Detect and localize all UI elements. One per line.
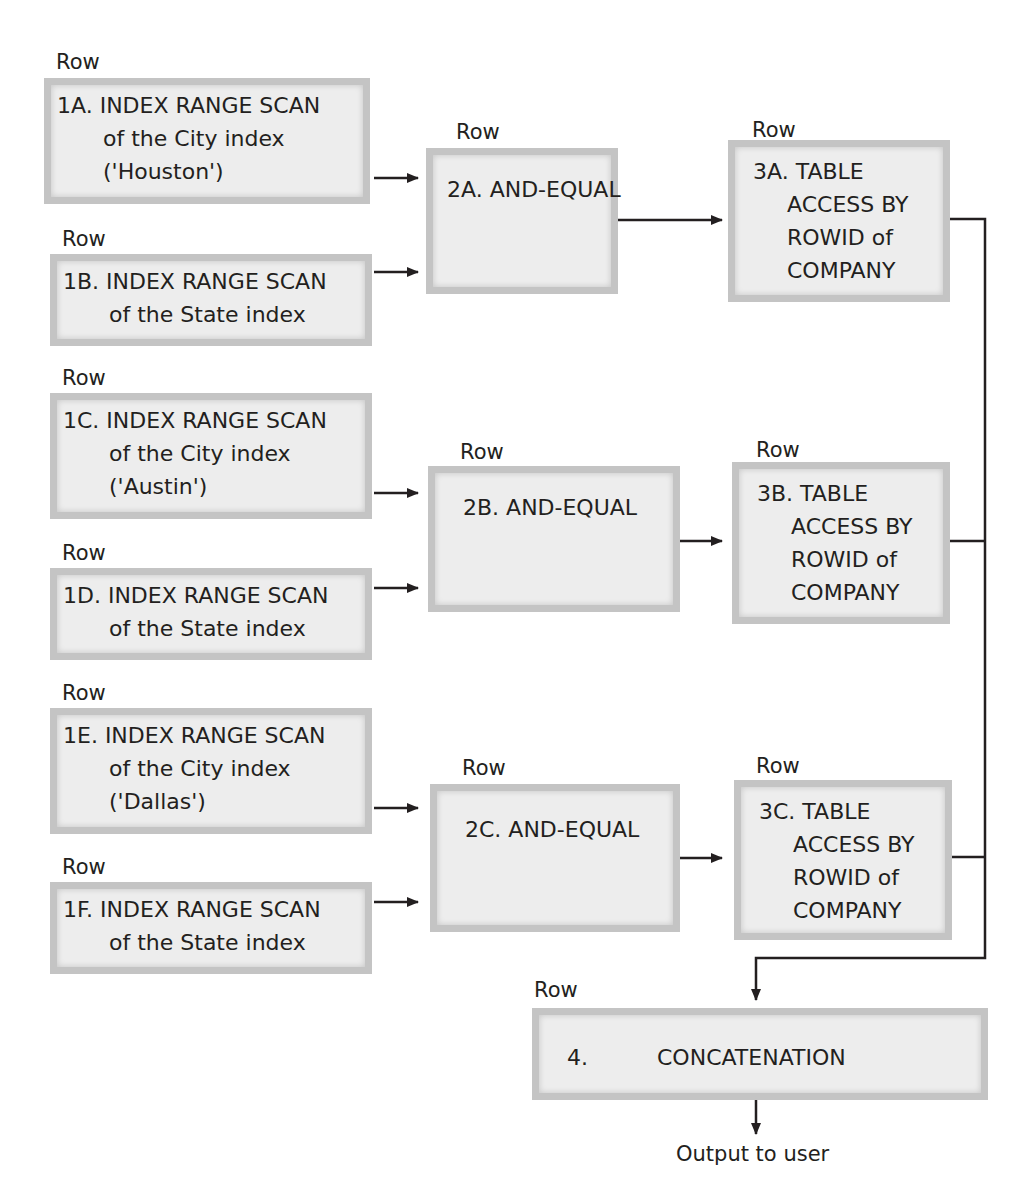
step-title: 2B. AND-EQUAL	[463, 491, 673, 524]
output-to-user-label: Output to user	[676, 1142, 829, 1166]
step-title: 1E. INDEX RANGE SCAN	[63, 719, 365, 752]
row-label-4: Row	[534, 978, 578, 1002]
step-1c-index-range-scan: 1C. INDEX RANGE SCAN of the City index (…	[50, 393, 372, 519]
step-title: CONCATENATION	[657, 1045, 846, 1070]
row-label-3a: Row	[752, 118, 796, 142]
step-detail: ACCESS BY	[753, 188, 943, 221]
row-label-3c: Row	[756, 754, 800, 778]
step-title: 1D. INDEX RANGE SCAN	[63, 579, 365, 612]
step-1f-index-range-scan: 1F. INDEX RANGE SCAN of the State index	[50, 882, 372, 974]
step-detail: of the City index	[63, 752, 365, 785]
row-label-2c: Row	[462, 756, 506, 780]
step-detail: ACCESS BY	[757, 510, 943, 543]
step-detail: of the State index	[63, 298, 365, 331]
step-title: 1C. INDEX RANGE SCAN	[63, 404, 365, 437]
step-number: 4.	[567, 1041, 657, 1074]
step-detail: ('Austin')	[63, 470, 365, 503]
step-detail: ACCESS BY	[759, 828, 945, 861]
step-title: 2C. AND-EQUAL	[465, 813, 673, 846]
step-title: 1B. INDEX RANGE SCAN	[63, 265, 365, 298]
row-label-3b: Row	[756, 438, 800, 462]
step-3b-table-access-by-rowid: 3B. TABLE ACCESS BY ROWID of COMPANY	[732, 462, 950, 624]
step-detail: of the City index	[57, 122, 363, 155]
step-title: 2A. AND-EQUAL	[447, 173, 611, 206]
step-detail: ROWID of	[759, 861, 945, 894]
step-1d-index-range-scan: 1D. INDEX RANGE SCAN of the State index	[50, 568, 372, 660]
row-label-2a: Row	[456, 120, 500, 144]
step-title: 1A. INDEX RANGE SCAN	[57, 89, 363, 122]
step-detail: ROWID of	[757, 543, 943, 576]
row-label-2b: Row	[460, 440, 504, 464]
step-1a-index-range-scan: 1A. INDEX RANGE SCAN of the City index (…	[44, 78, 370, 204]
row-label-1e: Row	[62, 681, 106, 705]
step-title: 3C. TABLE	[759, 795, 945, 828]
step-2a-and-equal: 2A. AND-EQUAL	[426, 148, 618, 294]
step-1b-index-range-scan: 1B. INDEX RANGE SCAN of the State index	[50, 254, 372, 346]
row-label-1b: Row	[62, 227, 106, 251]
step-3a-table-access-by-rowid: 3A. TABLE ACCESS BY ROWID of COMPANY	[728, 140, 950, 302]
step-detail: ('Houston')	[57, 155, 363, 188]
row-label-1c: Row	[62, 366, 106, 390]
row-label-1f: Row	[62, 855, 106, 879]
step-detail: of the City index	[63, 437, 365, 470]
step-2b-and-equal: 2B. AND-EQUAL	[428, 466, 680, 612]
step-1e-index-range-scan: 1E. INDEX RANGE SCAN of the City index (…	[50, 708, 372, 834]
step-4-concatenation: 4.CONCATENATION	[532, 1008, 988, 1100]
step-detail: ('Dallas')	[63, 785, 365, 818]
step-detail: of the State index	[63, 612, 365, 645]
step-title: 3B. TABLE	[757, 477, 943, 510]
step-detail: of the State index	[63, 926, 365, 959]
row-label-1d: Row	[62, 541, 106, 565]
step-2c-and-equal: 2C. AND-EQUAL	[430, 784, 680, 932]
step-detail: ROWID of	[753, 221, 943, 254]
step-3c-table-access-by-rowid: 3C. TABLE ACCESS BY ROWID of COMPANY	[734, 780, 952, 940]
step-title: 1F. INDEX RANGE SCAN	[63, 893, 365, 926]
step-title: 3A. TABLE	[753, 155, 943, 188]
step-detail: COMPANY	[757, 576, 943, 609]
row-label-1a: Row	[56, 50, 100, 74]
step-detail: COMPANY	[759, 894, 945, 927]
step-detail: COMPANY	[753, 254, 943, 287]
